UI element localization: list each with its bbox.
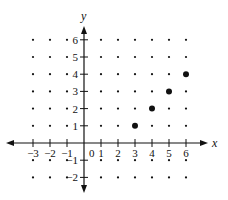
lattice-dot <box>134 159 136 161</box>
lattice-dot <box>117 176 119 178</box>
y-axis-up-arrow-icon <box>81 26 87 34</box>
y-tick-label: −2 <box>66 171 78 183</box>
y-axis-down-arrow-icon <box>81 185 87 193</box>
lattice-dot <box>32 176 34 178</box>
axes: xy <box>6 9 218 193</box>
lattice-dot <box>185 56 187 58</box>
lattice-dot <box>66 125 68 127</box>
x-tick-label: 2 <box>115 147 121 159</box>
lattice-dot <box>100 108 102 110</box>
x-tick-label: 1 <box>98 147 104 159</box>
lattice-dot <box>32 39 34 41</box>
lattice-dot <box>32 56 34 58</box>
lattice-dot <box>100 73 102 75</box>
data-point <box>166 88 172 94</box>
ticks <box>33 40 186 178</box>
lattice-dot <box>168 56 170 58</box>
lattice-dot <box>32 159 34 161</box>
data-point <box>132 123 138 129</box>
lattice-dot <box>151 73 153 75</box>
y-tick-label: 3 <box>73 85 79 97</box>
lattice-dot <box>49 39 51 41</box>
lattice-dot <box>151 90 153 92</box>
lattice-dot <box>117 73 119 75</box>
data-points <box>132 71 189 129</box>
y-tick-label: 1 <box>73 120 79 132</box>
tick-labels: −3−2−10123456−2−1123456 <box>27 34 189 184</box>
lattice-dot <box>168 108 170 110</box>
lattice-dot <box>168 73 170 75</box>
lattice-dot <box>49 73 51 75</box>
lattice-dot <box>100 39 102 41</box>
lattice-dot <box>168 125 170 127</box>
x-axis-left-arrow-icon <box>6 140 14 146</box>
y-tick-label: 6 <box>73 34 79 46</box>
lattice-dot <box>100 159 102 161</box>
lattice-dot <box>66 90 68 92</box>
lattice-dot <box>168 39 170 41</box>
lattice-dot <box>49 108 51 110</box>
lattice-dot <box>32 108 34 110</box>
lattice-dot <box>32 125 34 127</box>
lattice-dot <box>117 159 119 161</box>
lattice-dot <box>100 90 102 92</box>
lattice-dot <box>151 125 153 127</box>
x-axis-label: x <box>211 136 218 150</box>
y-tick-label: 4 <box>73 68 79 80</box>
lattice-dot <box>134 39 136 41</box>
lattice-dot <box>151 176 153 178</box>
lattice-dot <box>134 108 136 110</box>
lattice-dot <box>151 39 153 41</box>
x-tick-label: −3 <box>27 147 39 159</box>
lattice-dot <box>117 56 119 58</box>
lattice-dot <box>134 176 136 178</box>
x-tick-label: −2 <box>44 147 56 159</box>
lattice-dot <box>66 39 68 41</box>
lattice-dot <box>134 56 136 58</box>
lattice-dot <box>100 125 102 127</box>
lattice-dot <box>185 176 187 178</box>
lattice-dot <box>32 90 34 92</box>
lattice-dot <box>49 176 51 178</box>
x-axis-right-arrow-icon <box>200 140 208 146</box>
lattice-dot <box>49 125 51 127</box>
lattice-dot <box>117 125 119 127</box>
y-tick-label: 2 <box>73 103 79 115</box>
lattice-dot <box>66 108 68 110</box>
y-tick-label: 5 <box>73 51 79 63</box>
lattice-dot <box>151 159 153 161</box>
y-tick-label: −1 <box>66 154 78 166</box>
data-point <box>149 106 155 112</box>
lattice-dot <box>134 90 136 92</box>
x-tick-label: 6 <box>183 147 189 159</box>
lattice-dot <box>168 176 170 178</box>
lattice-dot <box>185 108 187 110</box>
lattice-dot <box>66 56 68 58</box>
coordinate-plane-chart: xy −3−2−10123456−2−1123456 <box>0 0 228 200</box>
x-tick-label: 5 <box>166 147 172 159</box>
lattice-dot <box>185 39 187 41</box>
x-tick-label: 0 <box>89 147 95 159</box>
x-tick-label: 3 <box>132 147 138 159</box>
lattice-dot <box>151 56 153 58</box>
lattice-dot <box>185 90 187 92</box>
lattice-dot <box>49 159 51 161</box>
lattice-dot <box>66 73 68 75</box>
lattice-dot <box>49 56 51 58</box>
lattice-dot <box>100 176 102 178</box>
x-tick-label: 4 <box>149 147 155 159</box>
lattice-dot <box>100 56 102 58</box>
lattice-dot <box>117 90 119 92</box>
data-point <box>183 71 189 77</box>
plot-area: xy −3−2−10123456−2−1123456 <box>0 0 228 200</box>
y-axis-label: y <box>80 9 87 23</box>
lattice-dot <box>185 159 187 161</box>
lattice-dot <box>32 73 34 75</box>
lattice-dot <box>117 39 119 41</box>
lattice-dot <box>185 125 187 127</box>
lattice-dot <box>49 90 51 92</box>
lattice-dot <box>134 73 136 75</box>
lattice-dot <box>168 159 170 161</box>
lattice-dot <box>117 108 119 110</box>
